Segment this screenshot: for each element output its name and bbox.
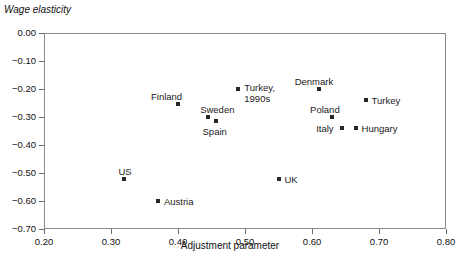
y-tick-mark bbox=[39, 89, 44, 90]
data-point-label: Sweden bbox=[200, 104, 234, 115]
data-point-marker bbox=[214, 119, 218, 123]
data-point-label: Turkey bbox=[372, 95, 401, 106]
data-point-marker bbox=[364, 98, 368, 102]
x-tick-mark bbox=[446, 229, 447, 234]
data-point-marker bbox=[236, 87, 240, 91]
x-tick-mark bbox=[44, 229, 45, 234]
data-point-label: US bbox=[118, 166, 131, 177]
y-tick-mark bbox=[39, 61, 44, 62]
data-point-label: Finland bbox=[151, 91, 182, 102]
data-point-label: Spain bbox=[203, 126, 227, 137]
data-point-marker bbox=[330, 115, 334, 119]
data-point-label: UK bbox=[285, 174, 298, 185]
y-tick-mark bbox=[39, 117, 44, 118]
y-tick-mark bbox=[39, 201, 44, 202]
x-tick-mark bbox=[178, 229, 179, 234]
data-point-marker bbox=[206, 115, 210, 119]
data-point-label: Austria bbox=[164, 196, 194, 207]
x-tick-mark bbox=[111, 229, 112, 234]
y-tick-label: −0.20 bbox=[0, 83, 36, 94]
x-tick-mark bbox=[245, 229, 246, 234]
y-tick-mark bbox=[39, 173, 44, 174]
data-point-marker bbox=[354, 126, 358, 130]
y-tick-mark bbox=[39, 33, 44, 34]
data-point-marker bbox=[317, 87, 321, 91]
data-point-marker bbox=[156, 199, 160, 203]
x-tick-mark bbox=[312, 229, 313, 234]
data-point-label: Poland bbox=[310, 104, 340, 115]
y-axis-title: Wage elasticity bbox=[4, 4, 71, 15]
data-point-marker bbox=[340, 126, 344, 130]
x-tick-mark bbox=[379, 229, 380, 234]
data-point-marker bbox=[277, 177, 281, 181]
y-tick-label: 0.00 bbox=[0, 27, 36, 38]
data-point-label: Hungary bbox=[362, 123, 398, 134]
data-point-marker bbox=[176, 102, 180, 106]
data-point-label: Denmark bbox=[295, 76, 334, 87]
y-tick-label: −0.70 bbox=[0, 223, 36, 234]
data-point-label: Turkey,1990s bbox=[244, 82, 275, 104]
y-tick-label: −0.30 bbox=[0, 111, 36, 122]
y-tick-mark bbox=[39, 145, 44, 146]
y-tick-label: −0.40 bbox=[0, 139, 36, 150]
y-tick-label: −0.60 bbox=[0, 195, 36, 206]
x-axis-title: Adjustment parameter bbox=[0, 240, 460, 251]
y-tick-label: −0.50 bbox=[0, 167, 36, 178]
data-point-marker bbox=[122, 177, 126, 181]
data-point-label: Italy bbox=[316, 123, 333, 134]
scatter-chart: Wage elasticity 0.00−0.10−0.20−0.30−0.40… bbox=[0, 0, 460, 258]
y-tick-label: −0.10 bbox=[0, 55, 36, 66]
